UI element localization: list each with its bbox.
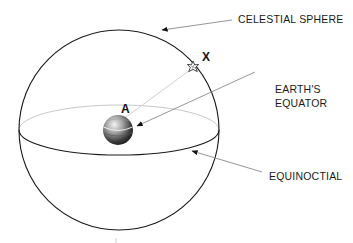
earths-equator-label-line2: EQUATOR [275,97,328,109]
sight-line [122,70,190,120]
earths-equator-leader-arrow [137,72,255,126]
equinoctial-leader-arrow [192,151,262,172]
earths-equator-label-line1: EARTH'S [275,83,321,95]
equinoctial-label: EQUINOCTIAL [269,170,342,182]
point-x-label: X [202,50,210,64]
celestial-sphere-diagram: CELESTIAL SPHERE EARTH'S EQUATOR EQUINOC… [0,0,353,243]
star-icon [187,61,198,72]
celestial-sphere-label: CELESTIAL SPHERE [238,13,344,25]
earth-globe-icon [103,115,133,145]
celestial-sphere-leader-arrow [162,20,232,30]
point-a-label: A [121,102,130,116]
